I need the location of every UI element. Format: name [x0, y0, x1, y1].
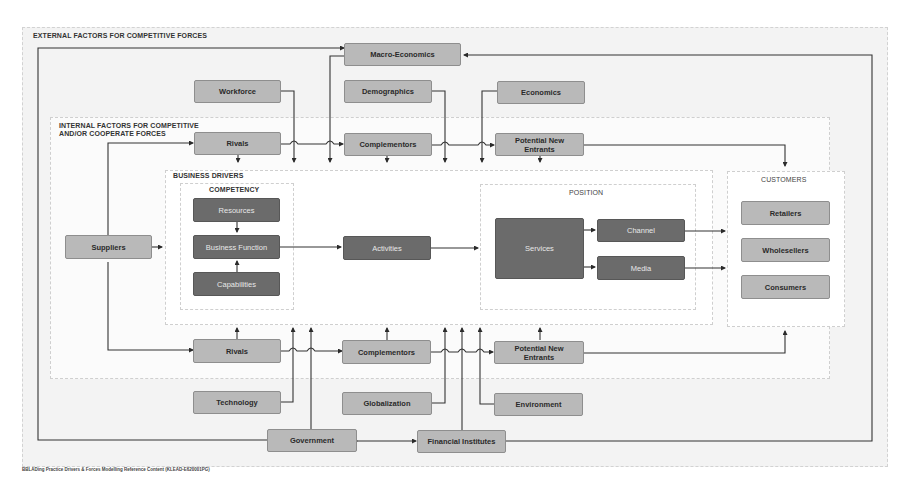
footer-caption: BBLADing Practice Drivers & Forces Model…	[22, 467, 210, 472]
resources-box[interactable]: Resources	[193, 198, 280, 222]
complementors-top-box[interactable]: Complementors	[344, 133, 432, 156]
retailers-box[interactable]: Retailers	[741, 201, 830, 225]
economics-box[interactable]: Economics	[497, 81, 585, 104]
channel-box[interactable]: Channel	[597, 219, 685, 242]
customers-label: CUSTOMERS	[761, 176, 807, 184]
complementors-bottom-box[interactable]: Complementors	[342, 340, 431, 364]
business-drivers-label: BUSINESS DRIVERS	[173, 172, 243, 180]
competency-label: COMPETENCY	[209, 186, 259, 194]
government-box[interactable]: Government	[267, 429, 357, 452]
suppliers-box[interactable]: Suppliers	[65, 235, 152, 259]
globalization-box[interactable]: Globalization	[342, 392, 432, 415]
potential-new-entrants-bottom-box[interactable]: Potential New Entrants	[494, 341, 584, 364]
rivals-bottom-box[interactable]: Rivals	[193, 339, 281, 363]
business-function-box[interactable]: Business Function	[193, 235, 280, 259]
macro-economics-box[interactable]: Macro-Economics	[344, 43, 461, 66]
environment-box[interactable]: Environment	[494, 393, 583, 416]
position-label: POSITION	[569, 189, 603, 197]
internal-factors-label: INTERNAL FACTORS FOR COMPETITIVE AND/OR …	[59, 122, 199, 138]
capabilities-box[interactable]: Capabilities	[193, 272, 280, 296]
activities-box[interactable]: Activities	[343, 236, 431, 260]
technology-box[interactable]: Technology	[193, 391, 281, 414]
consumers-box[interactable]: Consumers	[741, 275, 830, 299]
demographics-box[interactable]: Demographics	[344, 80, 432, 103]
workforce-box[interactable]: Workforce	[194, 80, 281, 103]
external-factors-label: EXTERNAL FACTORS FOR COMPETITIVE FORCES	[33, 32, 207, 40]
services-box[interactable]: Services	[495, 218, 584, 279]
potential-new-entrants-top-box[interactable]: Potential New Entrants	[495, 133, 584, 156]
wholesellers-box[interactable]: Wholesellers	[741, 238, 830, 262]
rivals-top-box[interactable]: Rivals	[194, 132, 281, 155]
media-box[interactable]: Media	[597, 256, 685, 280]
financial-institutes-box[interactable]: Financial Institutes	[417, 430, 506, 453]
